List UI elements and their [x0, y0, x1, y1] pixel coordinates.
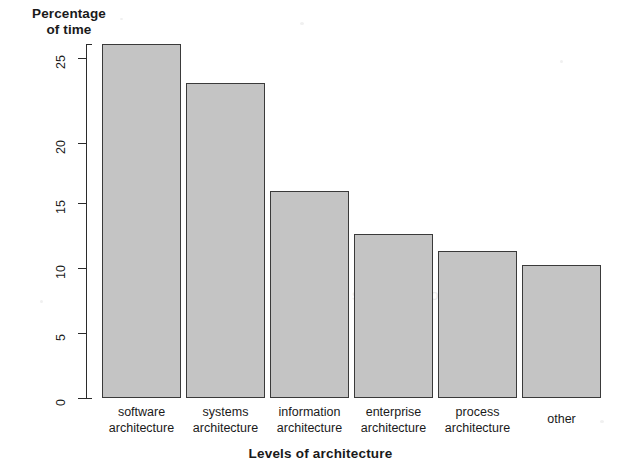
y-tick-10	[78, 268, 86, 269]
scan-speck	[560, 60, 563, 63]
y-tick-25	[78, 58, 86, 59]
y-axis-top-cap	[86, 44, 92, 45]
bar-information-architecture	[270, 191, 349, 398]
scan-speck	[300, 22, 304, 25]
y-axis-bottom-cap	[86, 398, 92, 399]
y-tick-label-0: 0	[54, 399, 68, 406]
y-tick-0	[78, 398, 86, 399]
x-tick-label-other: other	[512, 412, 611, 428]
y-tick-label-20: 20	[54, 140, 68, 154]
y-tick-label-15: 15	[54, 200, 68, 214]
bar-process-architecture	[438, 251, 517, 398]
plot-area: Percentage of time scanned document 0 5 …	[0, 0, 641, 475]
scan-speck	[40, 300, 43, 303]
y-tick-5	[78, 333, 86, 334]
bar-enterprise-architecture	[354, 234, 433, 398]
bar-software-architecture	[102, 44, 181, 398]
x-axis-title: Levels of architecture	[0, 446, 641, 461]
bar-chart: Percentage of time scanned document 0 5 …	[0, 0, 641, 475]
y-tick-20	[78, 143, 86, 144]
bar-other	[522, 265, 601, 398]
y-axis-line	[86, 44, 87, 399]
y-tick-15	[78, 203, 86, 204]
y-tick-label-5: 5	[54, 334, 68, 341]
y-tick-label-10: 10	[54, 265, 68, 279]
bar-systems-architecture	[186, 83, 265, 398]
y-tick-label-25: 25	[54, 55, 68, 69]
y-axis-title: Percentage of time	[14, 6, 124, 38]
